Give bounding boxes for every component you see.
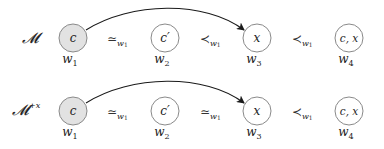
world-node-w2: c′ w2 (151, 97, 179, 141)
world-label: w1 (62, 125, 77, 141)
relation-1: ≃w1 (107, 32, 128, 48)
relation-2: ≺w1 (200, 32, 221, 48)
world-node-w1: c w1 (59, 24, 87, 68)
world-label: w2 (154, 52, 169, 68)
world-label: w1 (62, 52, 77, 68)
node-content: c, x (340, 105, 359, 117)
node-content: c (70, 104, 77, 118)
model-label-m: 𝓜 (22, 29, 44, 47)
model-row-m: 𝓜 c w1 ≃w1 c′ w2 ≺w1 x w3 ≺w1 c, x w4 (22, 8, 363, 68)
node-content: c′ (160, 104, 170, 118)
model-label-m-plus-x: 𝓜+x (12, 101, 41, 119)
world-node-w3: x w3 (243, 97, 271, 141)
node-content: x (254, 31, 261, 45)
world-node-w4: c, x w4 (335, 24, 363, 68)
world-node-w1: c w1 (59, 97, 87, 141)
relation-2: ≃w1 (200, 105, 221, 121)
relation-3: ≺w1 (292, 105, 313, 121)
world-node-w2: c′ w2 (151, 24, 179, 68)
model-row-m-plus-x: 𝓜+x c w1 ≃w1 c′ w2 ≃w1 x w3 ≺w1 c, x w4 (12, 81, 363, 141)
node-content: c (70, 31, 77, 45)
world-node-w3: x w3 (243, 24, 271, 68)
relation-3: ≺w1 (292, 32, 313, 48)
node-content: x (254, 104, 261, 118)
world-label: w4 (338, 52, 353, 68)
world-label: w4 (338, 125, 353, 141)
preference-model-diagram: 𝓜 c w1 ≃w1 c′ w2 ≺w1 x w3 ≺w1 c, x w4 𝓜+… (0, 0, 384, 149)
world-label: w3 (246, 125, 261, 141)
node-content: c, x (340, 32, 359, 44)
node-content: c′ (160, 31, 170, 45)
world-label: w2 (154, 125, 169, 141)
world-label: w3 (246, 52, 261, 68)
world-node-w4: c, x w4 (335, 97, 363, 141)
relation-1: ≃w1 (107, 105, 128, 121)
